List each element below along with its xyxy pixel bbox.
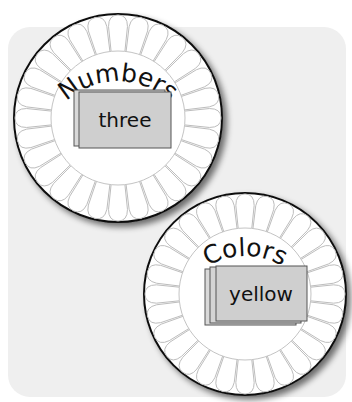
numbers-card-text: three — [99, 108, 152, 132]
numbers-spinner[interactable]: Numbers three — [14, 14, 222, 222]
numbers-card-stack[interactable]: three — [74, 90, 171, 148]
colors-card-text: yellow — [229, 282, 293, 306]
colors-spinner[interactable]: Colors yellow — [144, 193, 346, 395]
colors-card-stack[interactable]: yellow — [205, 266, 307, 325]
